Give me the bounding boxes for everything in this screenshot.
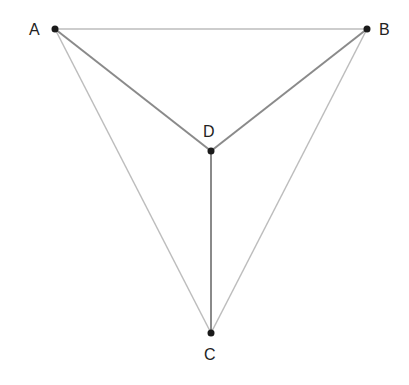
labels: ABCD [29, 21, 390, 363]
label-a: A [29, 21, 40, 38]
label-b: B [379, 21, 390, 38]
label-d: D [203, 123, 215, 140]
edge-ac [55, 29, 211, 333]
triangle-diagram: ABCD [0, 0, 409, 385]
edges [55, 29, 367, 333]
edge-bd [211, 29, 367, 151]
point-a [52, 26, 59, 33]
edge-bc [211, 29, 367, 333]
point-c [208, 330, 215, 337]
point-b [364, 26, 371, 33]
label-c: C [204, 346, 216, 363]
point-d [208, 148, 215, 155]
edge-ad [55, 29, 211, 151]
